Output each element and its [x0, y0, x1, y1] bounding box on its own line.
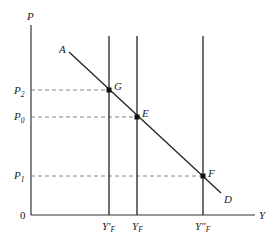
demand-curve-start-label: A: [58, 43, 66, 55]
y-double-prime-f-label: Y″F: [195, 220, 211, 234]
x-axis-label: Y: [259, 209, 267, 221]
aggregate-demand-supply-diagram: P Y 0 A D G E F P2 P0 P1 Y′F YF Y″F: [0, 0, 279, 240]
point-g-label: G: [114, 80, 122, 92]
origin-label: 0: [20, 209, 26, 221]
point-f-marker: [201, 174, 206, 179]
p2-label: P2: [13, 84, 25, 99]
y-prime-f-label: Y′F: [102, 220, 116, 234]
y-f-label: YF: [132, 220, 143, 234]
point-e-label: E: [141, 107, 149, 119]
p1-label: P1: [13, 169, 24, 184]
y-axis-label: P: [26, 10, 34, 22]
demand-curve-end-label: D: [223, 193, 232, 205]
p0-label: P0: [13, 110, 25, 125]
demand-curve: [69, 52, 221, 193]
point-e-marker: [135, 115, 140, 120]
point-f-label: F: [207, 167, 215, 179]
point-g-marker: [107, 88, 112, 93]
